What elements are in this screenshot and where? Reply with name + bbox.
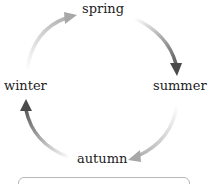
arrow-winter-to-spring bbox=[27, 12, 77, 70]
arrow-autumn-to-winter bbox=[20, 99, 68, 157]
answer-box bbox=[18, 177, 190, 184]
node-winter: winter bbox=[4, 78, 47, 93]
node-spring: spring bbox=[82, 1, 124, 16]
node-summer: summer bbox=[153, 78, 207, 93]
arrow-spring-to-summer bbox=[134, 18, 182, 76]
node-autumn: autumn bbox=[77, 151, 127, 166]
arrow-summer-to-autumn bbox=[128, 105, 177, 162]
